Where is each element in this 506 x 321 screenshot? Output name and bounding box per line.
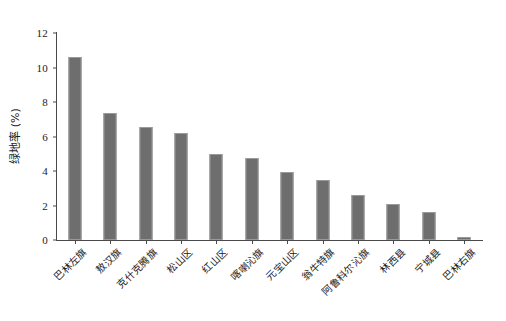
bar	[104, 113, 117, 240]
x-tick-label: 元宝山区	[262, 244, 302, 284]
y-tick-label: 12	[37, 27, 53, 39]
x-tick-label: 红山区	[198, 244, 230, 276]
y-tick-label: 6	[42, 131, 53, 143]
bar-slot	[199, 33, 234, 240]
x-tick-label: 松山区	[163, 244, 195, 276]
bar	[316, 180, 329, 240]
bar	[281, 172, 294, 240]
bar-slot	[411, 33, 446, 240]
x-tick-mark	[146, 240, 147, 244]
bar-slot	[163, 33, 198, 240]
x-tick-mark	[358, 240, 359, 244]
bar-slot	[447, 33, 482, 240]
bar	[245, 158, 258, 240]
x-tick-mark	[252, 240, 253, 244]
bar	[387, 204, 400, 240]
y-tick-label: 4	[42, 165, 53, 177]
x-tick-mark	[75, 240, 76, 244]
x-tick-label: 敖汉旗	[92, 244, 124, 276]
bar-slot	[340, 33, 375, 240]
x-axis-line	[56, 240, 483, 241]
x-tick-mark	[323, 240, 324, 244]
x-tick-mark	[181, 240, 182, 244]
x-tick-mark	[287, 240, 288, 244]
bar	[210, 154, 223, 240]
bar-slot	[234, 33, 269, 240]
x-tick-mark	[110, 240, 111, 244]
x-tick-mark	[429, 240, 430, 244]
bar	[68, 57, 81, 240]
y-tick-label: 8	[42, 96, 53, 108]
bar-slot	[305, 33, 340, 240]
y-tick-label: 0	[42, 234, 53, 246]
bar-slot	[92, 33, 127, 240]
bar-slot	[128, 33, 163, 240]
x-tick-label: 巴林右旗	[439, 244, 479, 284]
x-tick-mark	[216, 240, 217, 244]
bar-slot	[270, 33, 305, 240]
x-tick-label: 喀喇沁旗	[227, 244, 267, 284]
bar-slot	[57, 33, 92, 240]
x-tick-label: 林西县	[376, 244, 408, 276]
bar-series	[57, 33, 482, 240]
x-tick-label: 巴林左旗	[50, 244, 90, 284]
bar	[422, 212, 435, 240]
x-tick-mark	[393, 240, 394, 244]
bar	[174, 133, 187, 240]
y-axis-title: 绿地率 (%)	[6, 108, 22, 164]
bar	[352, 195, 365, 240]
bar	[139, 127, 152, 240]
bar-slot	[376, 33, 411, 240]
y-tick-label: 2	[42, 200, 53, 212]
bar-chart: 绿地率 (%) 024681012 巴林左旗敖汉旗克什克腾旗松山区红山区喀喇沁旗…	[0, 0, 506, 321]
x-tick-mark	[464, 240, 465, 244]
y-tick-label: 10	[37, 62, 53, 74]
